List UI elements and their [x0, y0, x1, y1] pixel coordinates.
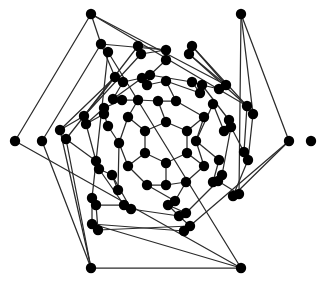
graph-vertex [236, 9, 246, 19]
graph-vertex [221, 80, 231, 90]
graph-vertex [182, 126, 192, 136]
graph-vertex [119, 200, 129, 210]
graph-vertex [161, 55, 171, 65]
graph-vertex [174, 211, 184, 221]
graph-vertex [179, 226, 189, 236]
graph-vertex [86, 263, 96, 273]
graph-vertex [140, 148, 150, 158]
graph-vertex [208, 99, 218, 109]
graph-canvas [0, 0, 326, 282]
graph-vertex [284, 136, 294, 146]
graph-vertex [182, 148, 192, 158]
graph-vertex [10, 136, 20, 146]
graph-vertex [103, 47, 113, 57]
graph-vertex [140, 126, 150, 136]
graph-vertex [113, 185, 123, 195]
graph-vertex [163, 200, 173, 210]
graph-vertex [91, 156, 101, 166]
graph-vertex [103, 121, 113, 131]
graph-vertex [114, 138, 124, 148]
graph-vertex [161, 76, 171, 86]
graph-vertex [61, 134, 71, 144]
graph-vertex [213, 176, 223, 186]
graph-vertex [110, 72, 120, 82]
graph-vertex [243, 155, 253, 165]
graph-vertex [161, 158, 171, 168]
graph-vertex [236, 263, 246, 273]
graph-vertex [187, 77, 197, 87]
graph-vertex [87, 193, 97, 203]
graph-vertex [161, 117, 171, 127]
graph-vertex [142, 180, 152, 190]
graph-vertex [108, 94, 118, 104]
graph-vertex [197, 80, 207, 90]
graph-vertex [248, 109, 258, 119]
graph-vertex [87, 219, 97, 229]
graph-vertex [117, 95, 127, 105]
graph-vertex [161, 180, 171, 190]
graph-vertex [86, 9, 96, 19]
graph-vertex [37, 136, 47, 146]
graph-vertex [145, 70, 155, 80]
graph-vertex [226, 122, 236, 132]
graph-vertex [99, 103, 109, 113]
graph-vertex [153, 96, 163, 106]
graph-vertex [96, 39, 106, 49]
graph-vertex [79, 111, 89, 121]
graph-vertex [214, 155, 224, 165]
graph-vertex [123, 112, 133, 122]
graph-vertex [199, 112, 209, 122]
graph-vertex [107, 170, 117, 180]
graph-vertex [55, 125, 65, 135]
graph-vertex [133, 41, 143, 51]
graph-vertex [181, 177, 191, 187]
graph-vertex [228, 191, 238, 201]
graph-vertex [191, 136, 201, 146]
graph-vertex [184, 49, 194, 59]
graph-vertex [306, 136, 316, 146]
graph-vertex [133, 95, 143, 105]
graph-figure [0, 0, 326, 282]
graph-vertex [161, 45, 171, 55]
graph-vertex [171, 96, 181, 106]
graph-vertex [199, 161, 209, 171]
graph-vertex [123, 161, 133, 171]
